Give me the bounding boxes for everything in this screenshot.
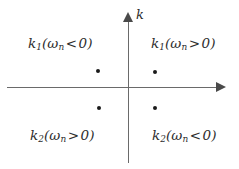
pole-point-upper-left [96,69,101,74]
pole-diagram-figure: k k1(ωn<0) k1(ωn>0) k2(ωn>0) k2(ωn<0) [0,0,239,169]
omega-subscript: n [60,134,66,144]
omega-symbol: ω [47,35,58,51]
relation-operator: < [64,35,78,51]
vertical-axis-arrow-icon [123,12,133,22]
pole-point-lower-left [97,106,102,111]
k-subscript: 2 [160,134,166,144]
quadrant-label-lower-left: k2(ωn>0) [30,129,95,143]
comparison-value: 0 [81,127,90,143]
quadrant-label-upper-left: k1(ωn<0) [28,37,93,51]
k-subscript: 1 [159,42,165,52]
vertical-axis-label: k [136,8,144,21]
omega-subscript: n [182,134,188,144]
close-paren: ) [210,35,215,51]
comparison-value: 0 [202,35,211,51]
omega-symbol: ω [49,127,60,143]
relation-operator: < [188,127,202,143]
omega-symbol: ω [171,127,182,143]
horizontal-axis-arrow-icon [216,82,226,92]
omega-symbol: ω [170,35,181,51]
vertical-axis-line [128,18,129,163]
relation-operator: > [66,127,80,143]
close-paren: ) [211,127,216,143]
k-subscript: 1 [36,42,42,52]
horizontal-axis-line [7,87,218,88]
quadrant-label-lower-right: k2(ωn<0) [152,129,217,143]
omega-subscript: n [181,42,187,52]
quadrant-label-upper-right: k1(ωn>0) [151,37,216,51]
close-paren: ) [87,35,92,51]
k-subscript: 2 [38,134,44,144]
comparison-value: 0 [79,35,88,51]
omega-subscript: n [58,42,64,52]
comparison-value: 0 [203,127,212,143]
pole-point-upper-right [153,70,158,75]
relation-operator: > [187,35,201,51]
close-paren: ) [89,127,94,143]
pole-point-lower-right [153,106,158,111]
